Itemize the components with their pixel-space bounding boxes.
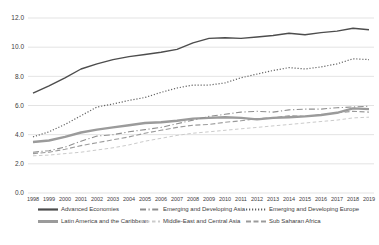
x-axis-label: 2017	[331, 196, 343, 202]
series-line-advanced-economies	[33, 28, 369, 93]
x-axis-label: 2003	[107, 196, 119, 202]
series-line-middle-east-and-central-asia	[33, 117, 369, 156]
x-axis-label: 2000	[59, 196, 71, 202]
legend-label-middle-east-central-asia: Middle-East and Central Asia	[163, 218, 240, 225]
legend-marker-middle-east-central-asia	[140, 219, 160, 224]
legend-marker-sub-saharan-africa	[246, 219, 266, 224]
y-axis-label: 8.0	[15, 73, 24, 80]
legend: Advanced Economies Emerging and Developi…	[38, 206, 377, 225]
x-axis-label: 2013	[267, 196, 279, 202]
x-axis-label: 2019	[363, 196, 375, 202]
x-axis-label: 2006	[155, 196, 167, 202]
legend-label-latin-america-caribbean: Latin America and the Caribbean	[61, 218, 148, 225]
y-axis-label: 4.0	[15, 131, 24, 138]
series-line-emerging-and-developing-asia	[33, 106, 369, 152]
legend-item-advanced-economies: Advanced Economies	[38, 206, 138, 213]
x-axis-label: 1999	[43, 196, 55, 202]
legend-item-latin-america-caribbean: Latin America and the Caribbean	[38, 218, 138, 225]
legend-item-emerging-developing-asia: Emerging and Developing Asia	[140, 206, 244, 213]
legend-item-middle-east-central-asia: Middle-East and Central Asia	[140, 218, 244, 225]
y-axis-label: 12.0	[11, 14, 24, 21]
y-axis-label: 10.0	[11, 43, 24, 50]
x-axis-label: 2011	[235, 196, 247, 202]
y-axis-label: 6.0	[15, 102, 24, 109]
legend-marker-advanced-economies	[38, 207, 58, 212]
series-line-latin-america-and-the-caribbean	[33, 108, 369, 142]
x-axis-label: 2005	[139, 196, 151, 202]
x-axis-label: 2007	[171, 196, 183, 202]
x-axis-label: 2016	[315, 196, 327, 202]
legend-label-emerging-developing-europe: Emerging and Developing Europe	[269, 206, 359, 213]
x-axis-label: 2012	[251, 196, 263, 202]
x-axis-label: 2004	[123, 196, 135, 202]
legend-marker-emerging-developing-asia	[140, 207, 160, 212]
x-axis-label: 2014	[283, 196, 295, 202]
legend-marker-latin-america-caribbean	[38, 219, 58, 224]
legend-label-sub-saharan-africa: Sub Saharan Africa	[269, 218, 321, 225]
y-axis-label: 0.0	[15, 189, 24, 196]
legend-item-sub-saharan-africa: Sub Saharan Africa	[246, 218, 377, 225]
x-axis-label: 1998	[27, 196, 39, 202]
x-axis-label: 2009	[203, 196, 215, 202]
line-chart: 12.010.08.06.04.02.00.019981999200020012…	[0, 0, 379, 245]
y-axis-label: 2.0	[15, 160, 24, 167]
x-axis-label: 2001	[75, 196, 87, 202]
x-axis-label: 2008	[187, 196, 199, 202]
legend-marker-emerging-developing-europe	[246, 207, 266, 212]
legend-label-emerging-developing-asia: Emerging and Developing Asia	[163, 206, 245, 213]
x-axis-label: 2002	[91, 196, 103, 202]
series-line-emerging-and-developing-europe	[33, 59, 369, 137]
legend-item-emerging-developing-europe: Emerging and Developing Europe	[246, 206, 377, 213]
x-axis-label: 2018	[347, 196, 359, 202]
legend-label-advanced-economies: Advanced Economies	[61, 206, 119, 213]
plot-area: 12.010.08.06.04.02.00.019981999200020012…	[0, 0, 379, 206]
x-axis-label: 2015	[299, 196, 311, 202]
x-axis-label: 2010	[219, 196, 231, 202]
